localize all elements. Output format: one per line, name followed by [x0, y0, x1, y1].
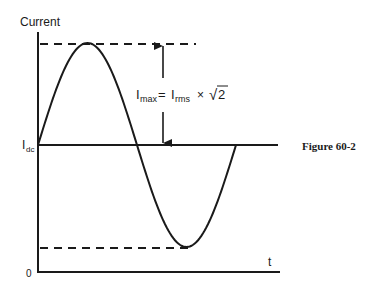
dc-level-label: I dc: [22, 138, 34, 154]
equation-times: ×: [197, 88, 204, 102]
y-axis-label: Current: [20, 15, 61, 29]
equation: I max = I rms × √ 2: [136, 86, 228, 104]
diagram-canvas: Current t 0 I dc I max = I rms × √ 2 Fig…: [0, 0, 384, 292]
origin-label: 0: [26, 268, 32, 279]
equation-sqrt-symbol: √: [209, 86, 218, 103]
equation-radicand: 2: [218, 87, 225, 102]
dc-label-main: I: [22, 138, 25, 152]
figure-caption: Figure 60-2: [302, 140, 356, 152]
equation-equals: =: [158, 87, 166, 102]
dc-label-sub: dc: [26, 145, 34, 154]
equation-lhs-sub: max: [140, 94, 158, 104]
equation-rhs-sub: rms: [175, 94, 190, 104]
x-axis-label: t: [268, 255, 272, 269]
